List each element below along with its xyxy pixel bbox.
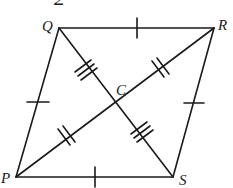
center-label-c: C xyxy=(116,83,126,98)
triple-tick-qc xyxy=(75,60,97,80)
vertex-label-p: P xyxy=(1,171,10,186)
vertex-label-q: Q xyxy=(42,19,53,34)
cropped-glyph: 2 xyxy=(54,0,65,9)
vertex-label-s: S xyxy=(179,173,187,188)
vertex-label-r: R xyxy=(218,18,227,33)
triple-tick-cs xyxy=(131,122,153,142)
